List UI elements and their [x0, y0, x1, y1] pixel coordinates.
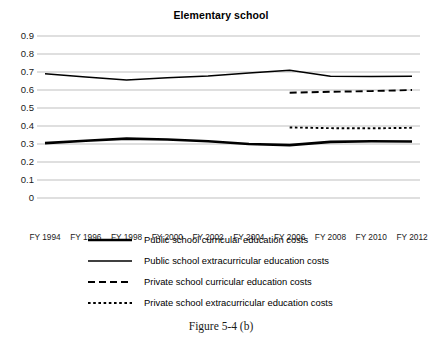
plot-area: 0.90.80.70.60.50.40.30.20.10 FY 1994FY 1… — [0, 28, 442, 218]
legend-line-swatch — [88, 272, 134, 292]
y-tick-label: 0.7 — [8, 67, 34, 77]
y-tick-label: 0.1 — [8, 175, 34, 185]
figure-container: Elementary school 0.90.80.70.60.50.40.30… — [0, 0, 442, 343]
chart-svg — [0, 28, 442, 228]
legend-label: Private school curricular education cost… — [144, 276, 312, 287]
gridlines-group — [37, 36, 420, 198]
y-tick-label: 0 — [8, 193, 34, 203]
chart-title: Elementary school — [0, 9, 442, 21]
y-tick-label: 0.4 — [8, 121, 34, 131]
y-tick-label: 0.8 — [8, 49, 34, 59]
y-tick-label: 0.2 — [8, 157, 34, 167]
y-tick-label: 0.6 — [8, 85, 34, 95]
legend-item[interactable]: Public school curricular education costs — [88, 230, 428, 250]
legend-line-swatch — [88, 293, 134, 313]
y-tick-label: 0.3 — [8, 139, 34, 149]
legend-item[interactable]: Private school curricular education cost… — [88, 272, 428, 292]
figure-caption: Figure 5-4 (b) — [0, 320, 442, 332]
legend-line-swatch — [88, 251, 134, 271]
legend-line-swatch — [88, 230, 134, 250]
legend-label: Public school curricular education costs — [144, 234, 308, 245]
legend-label: Public school extracurricular education … — [144, 255, 329, 266]
y-tick-label: 0.5 — [8, 103, 34, 113]
chart-legend: Public school curricular education costs… — [0, 230, 442, 316]
legend-item[interactable]: Public school extracurricular education … — [88, 251, 428, 271]
legend-item[interactable]: Private school extracurricular education… — [88, 293, 428, 313]
y-tick-label: 0.9 — [8, 31, 34, 41]
series-line — [290, 127, 412, 128]
legend-label: Private school extracurricular education… — [144, 297, 333, 308]
